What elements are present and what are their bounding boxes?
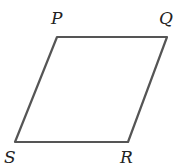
vertex-label-s: S xyxy=(4,147,16,164)
parallelogram-diagram: P Q R S xyxy=(0,0,179,164)
vertex-label-p: P xyxy=(50,8,63,28)
vertex-label-r: R xyxy=(119,147,133,164)
vertex-label-q: Q xyxy=(159,8,173,28)
parallelogram-pqrs xyxy=(15,37,167,142)
